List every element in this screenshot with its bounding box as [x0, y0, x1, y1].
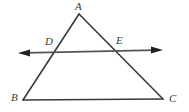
vertex-label-a: A	[75, 1, 82, 12]
transversal-segment	[26, 50, 155, 53]
geometry-figure: A B C D E	[0, 0, 189, 112]
vertex-label-b: B	[11, 92, 18, 103]
triangle-side-ab	[23, 14, 79, 100]
transversal-line-de	[18, 46, 163, 56]
point-label-e: E	[116, 35, 123, 46]
arrow-left-icon	[18, 49, 30, 56]
vertex-label-c: C	[169, 93, 176, 104]
arrow-right-icon	[151, 46, 163, 53]
triangle-abc	[23, 14, 163, 100]
point-label-d: D	[45, 36, 53, 47]
triangle-side-bc	[23, 99, 163, 100]
triangle-side-ac	[79, 14, 163, 99]
figure-canvas	[0, 0, 189, 112]
